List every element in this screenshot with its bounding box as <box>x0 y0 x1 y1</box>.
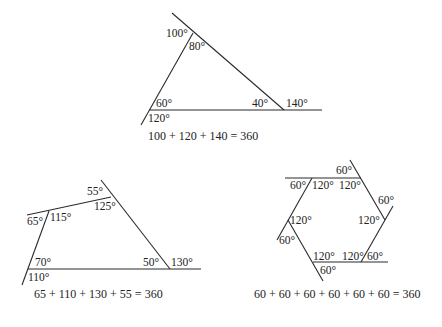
quad-bottom-left-exterior-angle: 110° <box>28 271 50 283</box>
hexagon-top-left-exterior-angle: 60° <box>290 179 307 191</box>
quad-top-exterior-angle: 55° <box>87 185 104 197</box>
quad-bottom-right-exterior-angle: 130° <box>171 256 193 268</box>
triangle-top-interior-angle: 80° <box>189 40 206 52</box>
triangle-left-interior-angle: 60° <box>156 97 173 109</box>
hexagon-bottom-left-interior-angle: 120° <box>313 250 335 262</box>
quadrilateral-figure: 55° 125° 65° 115° 70° 110° 50° 130° 65 +… <box>22 180 201 301</box>
hexagon-left-exterior-angle: 60° <box>279 234 296 246</box>
hexagon-left-interior-angle: 120° <box>290 214 312 226</box>
triangle-side-right <box>172 13 284 110</box>
quad-top-interior-angle: 125° <box>94 200 116 212</box>
triangle-equation: 100 + 120 + 140 = 360 <box>148 129 258 143</box>
hexagon-bottom-right-exterior-angle: 60° <box>367 250 384 262</box>
hexagon-bottom-left-exterior-angle: 60° <box>320 264 337 276</box>
quad-side-right <box>101 180 170 269</box>
hexagon-right-exterior-angle: 60° <box>378 194 395 206</box>
quad-bottom-left-interior-angle: 70° <box>35 256 52 268</box>
hexagon-top-left-interior-angle: 120° <box>312 179 334 191</box>
exterior-angles-diagram: 100° 80° 60° 120° 40° 140° 100 + 120 + 1… <box>0 0 442 327</box>
hexagon-top-right-exterior-angle: 60° <box>336 164 353 176</box>
hexagon-bottom-right-interior-angle: 120° <box>342 250 364 262</box>
quad-left-interior-angle: 115° <box>50 211 72 223</box>
triangle-top-exterior-angle: 100° <box>166 27 188 39</box>
hexagon-figure: 60° 60° 120° 120° 60° 120° 120° 60° 120°… <box>254 160 421 301</box>
triangle-figure: 100° 80° 60° 120° 40° 140° 100 + 120 + 1… <box>141 13 322 143</box>
quadrilateral-equation: 65 + 110 + 130 + 55 = 360 <box>34 287 163 301</box>
hexagon-right-interior-angle: 120° <box>358 214 380 226</box>
triangle-left-exterior-angle: 120° <box>148 112 170 124</box>
quad-bottom-right-interior-angle: 50° <box>143 256 160 268</box>
triangle-right-exterior-angle: 140° <box>286 97 308 109</box>
triangle-right-interior-angle: 40° <box>252 97 269 109</box>
hexagon-top-right-interior-angle: 120° <box>339 179 361 191</box>
quad-left-exterior-angle: 65° <box>27 215 44 227</box>
hexagon-equation: 60 + 60 + 60 + 60 + 60 + 60 = 360 <box>254 287 421 301</box>
